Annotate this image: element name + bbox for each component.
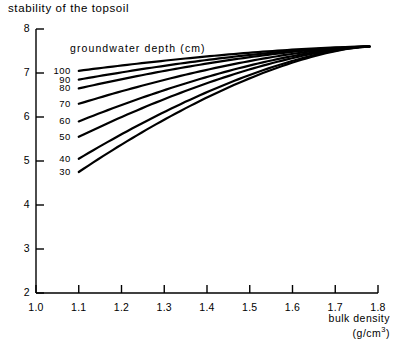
x-tick-label: 1.1 xyxy=(64,301,94,313)
x-axis-title-line2: (g/cm3) xyxy=(240,325,390,339)
x-tick-label: 1.2 xyxy=(107,301,137,313)
series-line-40 xyxy=(79,47,370,159)
x-axis-unit-open: (g/cm xyxy=(353,327,382,339)
series-label-70: 70 xyxy=(47,98,71,109)
series-label-60: 60 xyxy=(47,115,71,126)
x-tick-label: 1.0 xyxy=(21,301,51,313)
y-tick-label: 8 xyxy=(12,22,30,34)
x-tick-label: 1.3 xyxy=(149,301,179,313)
y-tick-label: 3 xyxy=(12,242,30,254)
series-label-30: 30 xyxy=(47,166,71,177)
series-label-50: 50 xyxy=(47,131,71,142)
series-label-80: 80 xyxy=(47,82,71,93)
y-tick-label: 2 xyxy=(12,286,30,298)
x-axis-title-line1: bulk density xyxy=(240,312,390,324)
y-tick-label: 4 xyxy=(12,198,30,210)
legend-title: groundwater depth (cm) xyxy=(70,42,206,54)
y-tick-label: 5 xyxy=(12,154,30,166)
x-tick-label: 1.4 xyxy=(192,301,222,313)
y-tick-label: 7 xyxy=(12,66,30,78)
chart-figure: stability of the topsoil 2345678 1.01.11… xyxy=(0,0,396,347)
x-axis-unit-close: ) xyxy=(386,327,390,339)
series-label-40: 40 xyxy=(47,153,71,164)
y-tick-label: 6 xyxy=(12,110,30,122)
